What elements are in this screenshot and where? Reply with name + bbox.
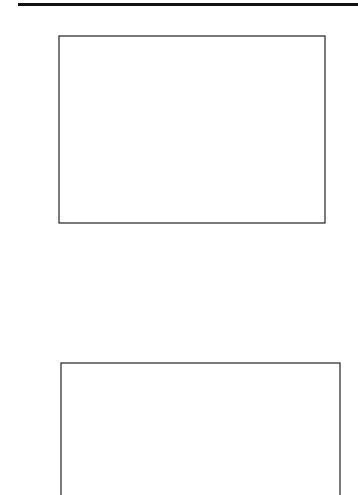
bottom-chart-frame [61,363,340,495]
top-chart [0,0,358,495]
top-chart-frame [59,36,325,223]
